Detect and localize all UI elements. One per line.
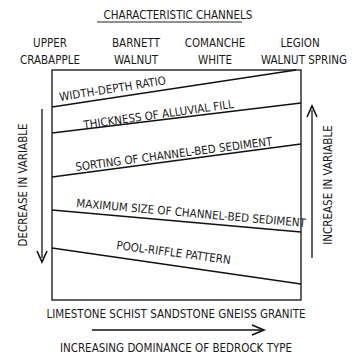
channel-3-line2: WHITE xyxy=(198,53,232,67)
label-max-size: MAXIMUM SIZE OF CHANNEL-BED SEDIMENT xyxy=(76,196,307,230)
channel-4-line2: WALNUT SPRING xyxy=(261,53,347,67)
channel-1-line1: UPPER xyxy=(33,36,67,50)
channel-diagram: CHARACTERISTIC CHANNELS UPPER CRABAPPLE … xyxy=(0,0,359,363)
channel-2-line1: BARNETT xyxy=(112,36,161,50)
left-axis-label: DECREASE IN VARIABLE xyxy=(16,123,30,246)
label-alluvial-fill: THICKNESS OF ALLUVIAL FILL xyxy=(81,97,234,132)
bottom-axis-label: INCREASING DOMINANCE OF BEDROCK TYPE xyxy=(60,341,292,355)
channel-4-line1: LEGION xyxy=(280,36,319,50)
diagram-title: CHARACTERISTIC CHANNELS xyxy=(104,8,253,22)
channel-3-line1: COMANCHE xyxy=(185,36,246,50)
bedrock-types: LIMESTONE SCHIST SANDSTONE GNEISS GRANIT… xyxy=(46,307,305,321)
channel-1-line2: CRABAPPLE xyxy=(20,53,80,67)
label-sorting: SORTING OF CHANNEL-BED SEDIMENT xyxy=(75,134,274,174)
label-pool-riffle: POOL-RIFFLE PATTERN xyxy=(116,238,232,267)
right-axis-label: INCREASE IN VARIABLE xyxy=(321,125,335,244)
channel-2-line2: WALNUT xyxy=(114,53,159,67)
label-width-depth: WIDTH-DEPTH RATIO xyxy=(58,73,166,104)
